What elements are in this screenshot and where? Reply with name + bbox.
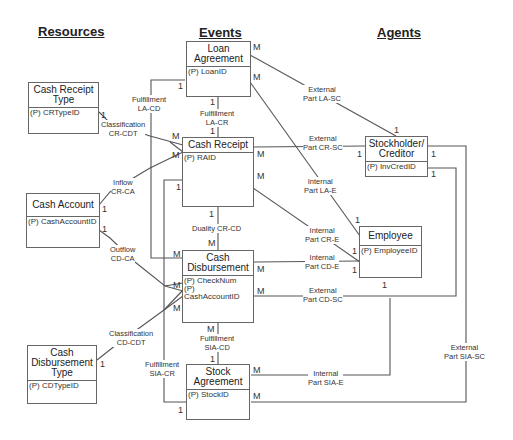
cardinality-marker: 1 (210, 127, 215, 136)
cardinality-marker: 1 (352, 247, 357, 256)
label-duality-cr-cd: Duality CR-CD (192, 224, 241, 233)
label-internal-sia-e: InternalPart SIA-E (308, 369, 343, 387)
label-fulfillment-la-cd: FulfillmentLA-CD (132, 95, 166, 113)
cardinality-marker: 1 (209, 210, 214, 219)
entity-stockholder-creditor[interactable]: Stockholder/ Creditor (P) InvCredID (365, 136, 428, 177)
label-fulfillment-sia-cr: FulfillmentSIA-CR (145, 360, 179, 378)
label-fulfillment-la-cr: FulfillmentLA-CR (200, 109, 234, 127)
entity-cash-receipt-type[interactable]: Cash Receipt Type (P) CRTypeID (28, 82, 99, 134)
label-internal-cr-e: InternalPart CR-E (305, 226, 339, 244)
cardinality-marker: M (253, 366, 261, 375)
cardinality-marker: M (173, 281, 181, 290)
cardinality-marker: M (253, 43, 261, 52)
cardinality-marker: M (257, 150, 265, 159)
label-outflow-cd-ca: OutflowCD-CA (110, 245, 135, 263)
cardinality-marker: 1 (382, 281, 387, 290)
entity-name: Loan Agreement (187, 42, 250, 67)
label-inflow-cr-ca: InflowCR-CA (111, 178, 135, 196)
entity-attribute: (P) CashAccountID (28, 218, 98, 226)
cardinality-marker: M (208, 239, 216, 248)
cardinality-marker: 1 (101, 111, 106, 120)
cardinality-marker: M (257, 287, 265, 296)
heading-agents: Agents (377, 25, 421, 40)
cardinality-marker: 1 (394, 126, 399, 135)
label-internal-la-e: InternalPart LA-E (304, 177, 337, 195)
cardinality-marker: 1 (178, 406, 183, 415)
heading-events: Events (199, 25, 242, 40)
entity-name: Employee (360, 227, 421, 246)
entity-name: Stock Agreement (187, 365, 249, 390)
cardinality-marker: 1 (102, 225, 107, 234)
cardinality-marker: 1 (431, 150, 436, 159)
cardinality-marker: 1 (210, 98, 215, 107)
entity-name: Stockholder/ Creditor (366, 137, 427, 162)
line-internal-cr-e (253, 188, 360, 262)
entity-attribute: (P) CRTypeID (30, 109, 97, 117)
line-classification-cd-cdt (97, 296, 183, 360)
entity-attribute: (P) RAID (184, 154, 252, 162)
entity-cash-account[interactable]: Cash Account (P) CashAccountID (26, 193, 100, 248)
entity-cash-disbursement-type[interactable]: Cash Disbursement Type (P) CDTypeID (27, 345, 97, 404)
entity-attribute: (P) InvCredID (367, 163, 426, 171)
cardinality-marker: 1 (102, 205, 107, 214)
cardinality-marker: M (173, 250, 181, 259)
label-classification-cr-cdt: ClassificationCR-CDT (101, 120, 145, 138)
label-external-sia-sc: ExternalPart SIA-SC (444, 343, 485, 361)
entity-attribute: (P) StockID (188, 391, 248, 399)
label-classification-cd-cdt: ClassificationCD-CDT (109, 329, 153, 347)
cardinality-marker: 1 (352, 266, 357, 275)
entity-attribute: (P) CDTypeID (29, 382, 95, 390)
cardinality-marker: 1 (431, 170, 436, 179)
entity-loan-agreement[interactable]: Loan Agreement (P) LoanID (186, 41, 251, 97)
cardinality-marker: M (257, 172, 265, 181)
cardinality-marker: 1 (100, 360, 105, 369)
label-external-la-sc: ExternalPart LA-SC (303, 85, 341, 103)
entity-cash-receipt[interactable]: Cash Receipt (P) RAID (182, 137, 254, 207)
entity-attribute: (P) LoanID (188, 68, 249, 76)
label-fulfillment-sia-cd: FulfillmentSIA-CD (200, 334, 234, 352)
label-internal-cd-e: InternalPart CD-E (305, 253, 339, 271)
entity-cash-disbursement[interactable]: Cash Disbursement (P) CheckNum (P) CashA… (182, 250, 254, 323)
entity-name: Cash Account (27, 194, 99, 217)
entity-stock-agreement[interactable]: Stock Agreement (P) StockID (186, 364, 250, 420)
cardinality-marker: M (173, 304, 181, 313)
entity-attribute: (P) EmployeeID (361, 247, 420, 255)
label-external-cr-sc: ExternalPart CR-SC (303, 134, 343, 152)
cardinality-marker: M (253, 392, 261, 401)
entity-name: Cash Receipt (183, 138, 253, 153)
entity-name: Cash Disbursement (183, 251, 253, 276)
cardinality-marker: M (207, 325, 215, 334)
line-external-cd-sc (253, 168, 456, 296)
cardinality-marker: M (172, 151, 180, 160)
cardinality-marker: M (172, 132, 180, 141)
line-internal-la-e (250, 82, 360, 236)
cardinality-marker: 1 (210, 355, 215, 364)
cardinality-marker: 1 (178, 82, 183, 91)
cardinality-marker: 1 (357, 150, 362, 159)
entity-name: Cash Disbursement Type (28, 346, 96, 381)
heading-resources: Resources (38, 24, 104, 39)
line-internal-sia-e (251, 298, 390, 375)
cardinality-marker: 1 (355, 216, 360, 225)
cardinality-marker: M (253, 73, 261, 82)
entity-name: Cash Receipt Type (29, 83, 98, 108)
cardinality-marker: 1 (176, 183, 181, 192)
label-external-cd-sc: ExternalPart CD-SC (303, 286, 343, 304)
cardinality-marker: M (257, 265, 265, 274)
entity-attribute: (P) CashAccountID (184, 285, 252, 301)
entity-employee[interactable]: Employee (P) EmployeeID (359, 226, 422, 278)
